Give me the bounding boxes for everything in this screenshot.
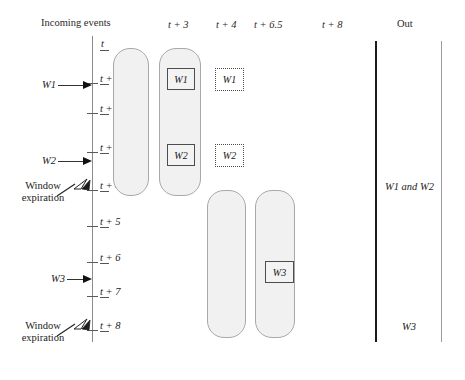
header-t-plus-6-5: t + 6.5 — [254, 20, 282, 31]
event-arrow-shaft-w3 — [67, 279, 84, 280]
header-incoming-events: Incoming events — [41, 18, 111, 29]
expired-event-box-w2: W2 — [215, 144, 244, 167]
out-rail-left — [375, 41, 377, 342]
tick-label: t + 6 — [100, 252, 121, 263]
event-label-w3: W3 — [51, 273, 65, 284]
event-arrow-shaft-w2 — [58, 161, 84, 162]
tick-underline — [100, 191, 109, 192]
event-arrow-head-w2 — [83, 157, 92, 165]
tick-label: t + 5 — [100, 216, 121, 227]
event-box-w2: W2 — [167, 144, 195, 166]
tick-mark — [87, 262, 98, 263]
header-t-plus-8: t + 8 — [322, 20, 343, 31]
out-entry-w1-and-w2: W1 and W2 — [385, 181, 434, 192]
tick-mark — [87, 226, 98, 227]
tick-underline — [100, 263, 109, 264]
window-bucket-empty-t65 — [207, 190, 246, 338]
event-box-w1: W1 — [167, 68, 195, 90]
tick-underline — [100, 84, 109, 85]
event-arrow-shaft-w1 — [58, 85, 84, 86]
axis-origin-underline — [100, 50, 109, 51]
tick-mark — [87, 296, 98, 297]
event-arrow-head-w3 — [83, 275, 92, 283]
event-box-w3: W3 — [265, 261, 294, 283]
header-t-plus-3: t + 3 — [168, 20, 189, 31]
window-bucket-empty-t3 — [113, 48, 149, 196]
event-label-w2: W2 — [42, 155, 56, 166]
window-expiration-arrow-1-icon — [56, 176, 92, 198]
window-timeline-diagram: Incoming events t + 3 t + 4 t + 6.5 t + … — [0, 0, 465, 380]
tick-underline — [100, 153, 109, 154]
axis-origin-label: t — [101, 38, 104, 49]
header-out: Out — [397, 19, 413, 30]
tick-mark — [87, 152, 98, 153]
tick-underline — [100, 331, 109, 332]
tick-underline — [100, 114, 109, 115]
window-expiration-arrow-2-icon — [56, 316, 92, 338]
expired-event-box-w1: W1 — [215, 68, 244, 91]
tick-underline — [100, 297, 109, 298]
tick-label: t + 8 — [100, 320, 121, 331]
tick-underline — [100, 227, 109, 228]
out-entry-w3: W3 — [402, 321, 416, 332]
header-t-plus-4: t + 4 — [216, 20, 237, 31]
out-rail-right — [441, 41, 442, 342]
tick-label: t + 7 — [100, 286, 121, 297]
tick-mark — [87, 113, 98, 114]
event-arrow-head-w1 — [83, 81, 92, 89]
event-label-w1: W1 — [42, 79, 56, 90]
